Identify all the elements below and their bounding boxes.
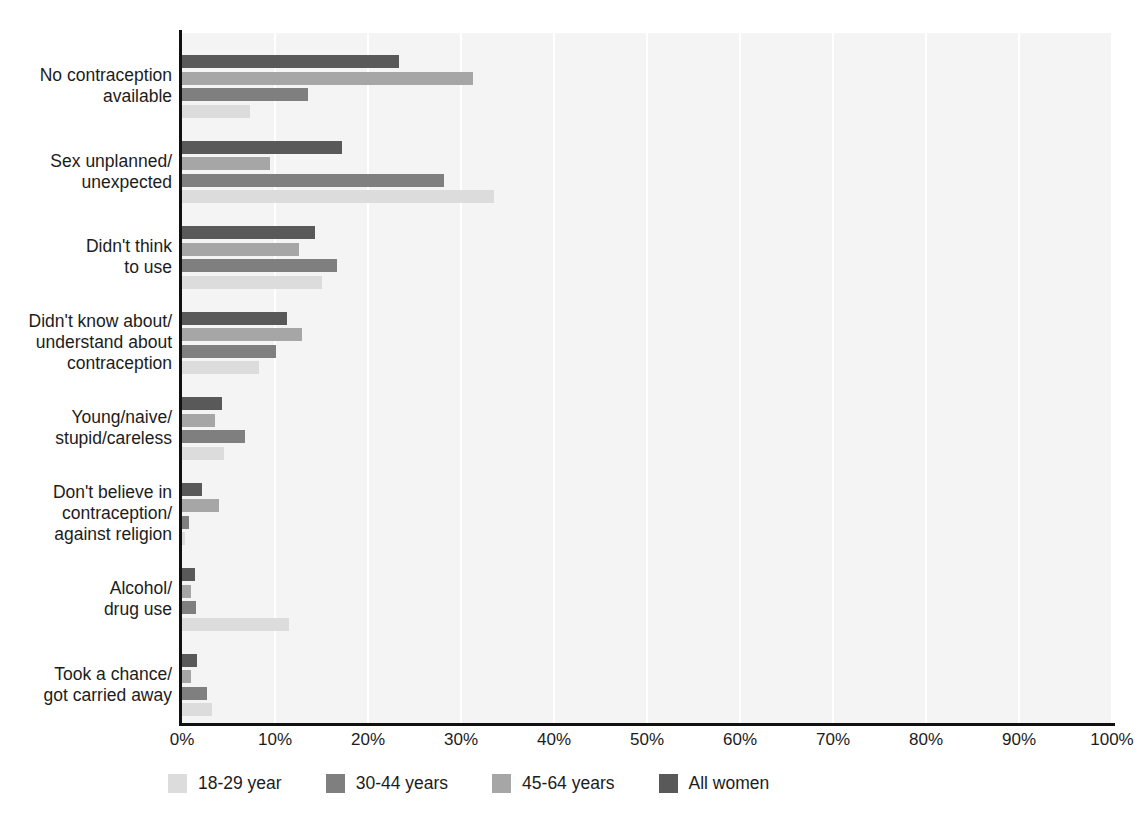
- x-tick-label: 50%: [612, 730, 682, 750]
- x-tick-label: 90%: [984, 730, 1054, 750]
- bar: [182, 72, 473, 85]
- bar: [182, 430, 245, 443]
- bar: [182, 687, 207, 700]
- legend-item[interactable]: 30-44 years: [326, 773, 448, 794]
- chart-legend: 18-29 year30-44 years45-64 yearsAll wome…: [168, 773, 813, 794]
- bar: [182, 532, 185, 545]
- category-label: Didn't know about/ understand about cont…: [0, 311, 172, 374]
- bar-group: [182, 141, 1112, 207]
- category-label: Took a chance/ got carried away: [0, 664, 172, 706]
- category-label: Alcohol/ drug use: [0, 578, 172, 620]
- bar: [182, 243, 299, 256]
- x-tick-label: 60%: [705, 730, 775, 750]
- bar: [182, 618, 289, 631]
- bar: [182, 276, 322, 289]
- bar: [182, 361, 259, 374]
- bar: [182, 345, 276, 358]
- category-label: No contraception available: [0, 65, 172, 107]
- bar-group: [182, 568, 1112, 634]
- legend-label: 30-44 years: [356, 773, 448, 794]
- category-label: Didn't think to use: [0, 236, 172, 278]
- bar: [182, 312, 287, 325]
- bar: [182, 568, 195, 581]
- bar-group: [182, 55, 1112, 121]
- bar: [182, 585, 191, 598]
- bar: [182, 105, 250, 118]
- legend-swatch-icon: [326, 774, 345, 793]
- x-tick-label: 100%: [1077, 730, 1140, 750]
- x-tick-label: 0%: [147, 730, 217, 750]
- category-label: Young/naive/ stupid/careless: [0, 407, 172, 449]
- bar: [182, 190, 494, 203]
- legend-label: 45-64 years: [522, 773, 614, 794]
- chart-container: No contraception availableSex unplanned/…: [0, 0, 1140, 833]
- bar: [182, 259, 337, 272]
- y-axis-line: [179, 30, 182, 726]
- bar: [182, 654, 197, 667]
- x-axis-line: [179, 723, 1115, 726]
- bar: [182, 447, 224, 460]
- legend-item[interactable]: All women: [659, 773, 770, 794]
- legend-label: 18-29 year: [198, 773, 282, 794]
- x-tick-label: 30%: [426, 730, 496, 750]
- bar-group: [182, 226, 1112, 292]
- legend-item[interactable]: 18-29 year: [168, 773, 282, 794]
- x-tick-label: 80%: [891, 730, 961, 750]
- legend-swatch-icon: [168, 774, 187, 793]
- bar: [182, 174, 444, 187]
- bar: [182, 397, 222, 410]
- bar: [182, 88, 308, 101]
- plot-area: [182, 33, 1112, 723]
- bar: [182, 670, 191, 683]
- bar: [182, 483, 202, 496]
- legend-swatch-icon: [659, 774, 678, 793]
- bar: [182, 601, 196, 614]
- x-tick-label: 10%: [240, 730, 310, 750]
- legend-label: All women: [689, 773, 770, 794]
- category-label: Don't believe in contraception/ against …: [0, 482, 172, 545]
- bar-group: [182, 483, 1112, 549]
- bar-group: [182, 312, 1112, 378]
- bar: [182, 328, 302, 341]
- bar-group: [182, 654, 1112, 720]
- x-tick-label: 20%: [333, 730, 403, 750]
- x-tick-label: 40%: [519, 730, 589, 750]
- bar: [182, 157, 270, 170]
- bar: [182, 414, 215, 427]
- legend-swatch-icon: [492, 774, 511, 793]
- bar-group: [182, 397, 1112, 463]
- bar: [182, 516, 189, 529]
- x-tick-label: 70%: [798, 730, 868, 750]
- bar: [182, 226, 315, 239]
- bar: [182, 703, 212, 716]
- bar: [182, 499, 219, 512]
- category-label: Sex unplanned/ unexpected: [0, 151, 172, 193]
- legend-item[interactable]: 45-64 years: [492, 773, 614, 794]
- bar: [182, 141, 342, 154]
- bar: [182, 55, 399, 68]
